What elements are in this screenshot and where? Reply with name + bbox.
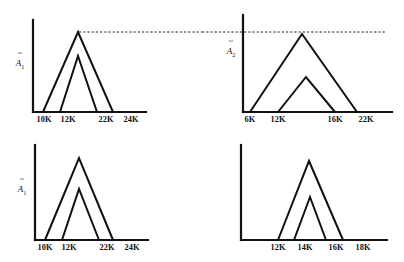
x-tick-label-0-top-left: 10K [36,115,52,124]
y-axis-label-text-top-left: A1 [15,58,25,70]
inner-membership-triangle-bottom-left [62,189,99,240]
y-axis-label-sub-top-right: 2 [232,51,235,58]
x-tick-label-3-top-right: 22K [358,115,374,124]
fuzzy-membership-figure: ~ A1 10K 12K 22K 24K ~ A2 [0,0,404,262]
outer-membership-triangle-top-right [250,34,357,112]
panel-top-right-plot: ~ A2 6K 12K 16K 22K [202,0,404,131]
inner-membership-triangle-top-right [278,77,335,112]
x-tick-label-1-top-left: 12K [60,115,76,124]
x-tick-label-2-bottom-right: 16K [328,243,344,252]
panel-top-left-plot: ~ A1 10K 12K 22K 24K [0,0,202,131]
x-tick-label-2-top-right: 16K [327,115,343,124]
y-axis-label-text-top-right: A2 [226,46,236,58]
y-axis-label-top-right: ~ A2 [226,37,236,58]
x-tick-label-3-bottom-right: 18K [355,243,371,252]
y-axis-label-top-left: ~ A1 [15,49,25,70]
y-axis-label-bottom-left: ~ A1 [17,175,27,196]
panel-bottom-left-plot: ~ A1 10K 12K 22K 24K [0,131,202,262]
x-tick-label-0-bottom-left: 10K [37,243,53,252]
panel-bottom-left: ~ A1 10K 12K 22K 24K [0,131,202,262]
x-tick-label-2-top-left: 22K [98,115,114,124]
x-tick-label-1-bottom-left: 12K [61,243,77,252]
y-axis-label-sub-top-left: 1 [21,63,24,70]
x-tick-label-0-bottom-right: 12K [270,243,286,252]
inner-membership-triangle-bottom-right [294,197,326,240]
outer-membership-triangle-top-left [43,32,113,112]
panel-bottom-right-plot: 12K 14K 16K 18K [202,131,404,262]
panel-bottom-right: 12K 14K 16K 18K [202,131,404,262]
x-tick-label-3-bottom-left: 24K [124,243,140,252]
y-axis-label-tilde-top-left: ~ [18,49,23,58]
y-axis-label-text-bottom-left: A1 [17,184,27,196]
x-tick-label-3-top-left: 24K [123,115,139,124]
y-axis-label-sub-bottom-left: 1 [23,189,26,196]
x-tick-label-0-top-right: 6K [245,115,256,124]
panel-top-right: ~ A2 6K 12K 16K 22K [202,0,404,131]
y-axis-label-tilde-top-right: ~ [229,37,234,46]
x-tick-label-1-top-right: 12K [270,115,286,124]
x-tick-label-1-bottom-right: 14K [297,243,313,252]
panel-top-left: ~ A1 10K 12K 22K 24K [0,0,202,131]
x-tick-label-2-bottom-left: 22K [99,243,115,252]
y-axis-label-tilde-bottom-left: ~ [20,175,25,184]
outer-membership-triangle-bottom-left [45,158,113,240]
